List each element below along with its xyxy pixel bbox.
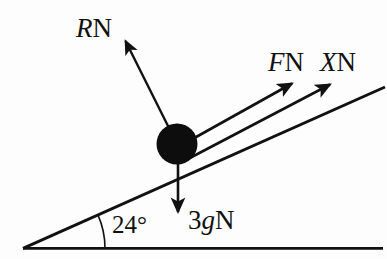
applied-force-symbol: F: [267, 47, 285, 77]
angle-arc: [98, 215, 105, 249]
weight-label: 3gN: [188, 205, 235, 235]
force-diagram-figure: 24° RN FN XN 3gN: [0, 0, 387, 259]
weight-symbol: g: [202, 205, 216, 235]
weight-unit: N: [215, 205, 235, 235]
applied-force-unit: N: [285, 47, 305, 77]
second-force-symbol: X: [319, 47, 338, 77]
normal-reaction-symbol: R: [75, 13, 93, 43]
second-force-label: XN: [319, 47, 356, 77]
angle-label: 24°: [112, 211, 147, 238]
second-force-unit: N: [337, 47, 357, 77]
weight-coefficient: 3: [188, 205, 202, 235]
normal-reaction-label: RN: [75, 13, 112, 43]
applied-force-label: FN: [267, 47, 304, 77]
particle-ball: [157, 124, 198, 165]
diagram-canvas: 24° RN FN XN 3gN: [0, 0, 387, 259]
normal-reaction-unit: N: [93, 13, 113, 43]
